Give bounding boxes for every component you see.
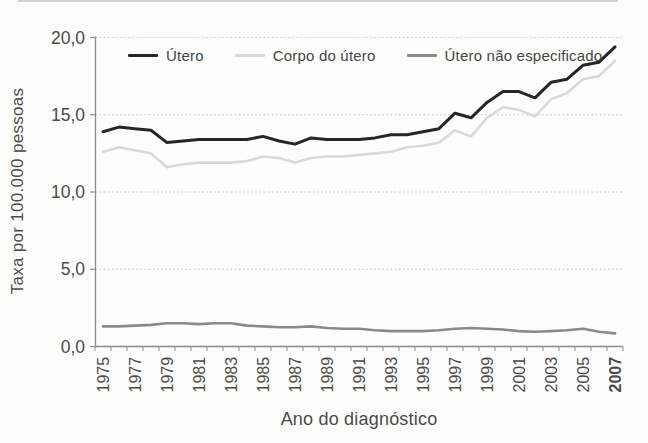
- x-tick-label-2003: 2003: [543, 357, 560, 393]
- y-tick-label: 10,0: [51, 182, 85, 202]
- figure: 20,015,010,05,00,01975197719791981198319…: [0, 0, 648, 443]
- legend-swatch-corpo-do-utero: [235, 54, 265, 57]
- legend-swatch-utero: [128, 54, 158, 57]
- x-tick-label-1979: 1979: [159, 357, 176, 393]
- x-tick-label-2001: 2001: [511, 357, 528, 393]
- y-tick-label: 0,0: [61, 337, 86, 357]
- y-tick-label: 20,0: [51, 28, 85, 48]
- series-line-2: [103, 323, 615, 333]
- x-tick-label-1999: 1999: [479, 357, 496, 393]
- x-axis-title: Ano do diagnóstico: [95, 409, 623, 430]
- series-line-1: [103, 61, 615, 168]
- y-tick-label: 15,0: [51, 105, 85, 125]
- x-tick-label-2005: 2005: [575, 357, 592, 393]
- legend: Útero Corpo do útero Útero não especific…: [128, 47, 633, 64]
- legend-label-utero: Útero: [166, 47, 204, 64]
- legend-label-corpo-do-utero: Corpo do útero: [273, 47, 376, 64]
- legend-item-utero: Útero: [128, 47, 204, 64]
- x-tick-label-1987: 1987: [287, 357, 304, 393]
- y-axis-title: Taxa por 100.000 pessoas: [8, 41, 28, 341]
- x-tick-label-1983: 1983: [223, 357, 240, 393]
- x-tick-label-1985: 1985: [255, 357, 272, 393]
- legend-item-corpo-do-utero: Corpo do útero: [235, 47, 376, 64]
- x-tick-label-1981: 1981: [191, 357, 208, 393]
- y-tick-label: 5,0: [61, 259, 86, 279]
- legend-label-utero-nao-especificado: Útero não especificado: [445, 47, 603, 64]
- x-tick-label-1993: 1993: [383, 357, 400, 393]
- chart-canvas: 20,015,010,05,00,01975197719791981198319…: [0, 0, 648, 443]
- x-tick-label-1975: 1975: [95, 357, 112, 393]
- x-tick-label-1977: 1977: [127, 357, 144, 393]
- x-tick-label-1995: 1995: [415, 357, 432, 393]
- x-tick-label-1991: 1991: [351, 357, 368, 393]
- x-tick-label-1997: 1997: [447, 357, 464, 393]
- legend-swatch-utero-nao-especificado: [407, 54, 437, 57]
- x-tick-label-2007: 2007: [607, 357, 624, 393]
- legend-item-utero-nao-especificado: Útero não especificado: [407, 47, 603, 64]
- x-tick-label-1989: 1989: [319, 357, 336, 393]
